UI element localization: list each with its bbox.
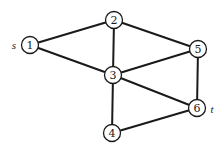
sink-label: t bbox=[210, 103, 214, 115]
edge-1-3 bbox=[30, 45, 113, 75]
node-1-label: 1 bbox=[27, 39, 34, 52]
edge-3-6 bbox=[113, 75, 197, 108]
node-6-label: 6 bbox=[194, 102, 201, 115]
edge-3-5 bbox=[113, 49, 198, 75]
node-4-label: 4 bbox=[109, 127, 116, 140]
node-6: 6 bbox=[189, 100, 206, 117]
node-3-label: 3 bbox=[110, 69, 117, 82]
node-3: 3 bbox=[105, 67, 122, 84]
edge-4-6 bbox=[112, 108, 197, 133]
node-2-label: 2 bbox=[111, 14, 118, 27]
edge-1-2 bbox=[30, 20, 114, 45]
source-label: s bbox=[12, 39, 16, 51]
node-4: 4 bbox=[104, 125, 121, 142]
node-2: 2 bbox=[106, 12, 123, 29]
node-1: 1 bbox=[22, 37, 39, 54]
graph-diagram: 1 2 3 4 5 6 s t bbox=[0, 0, 224, 149]
node-5: 5 bbox=[190, 41, 207, 58]
node-5-label: 5 bbox=[195, 43, 202, 56]
edge-2-5 bbox=[114, 20, 198, 49]
